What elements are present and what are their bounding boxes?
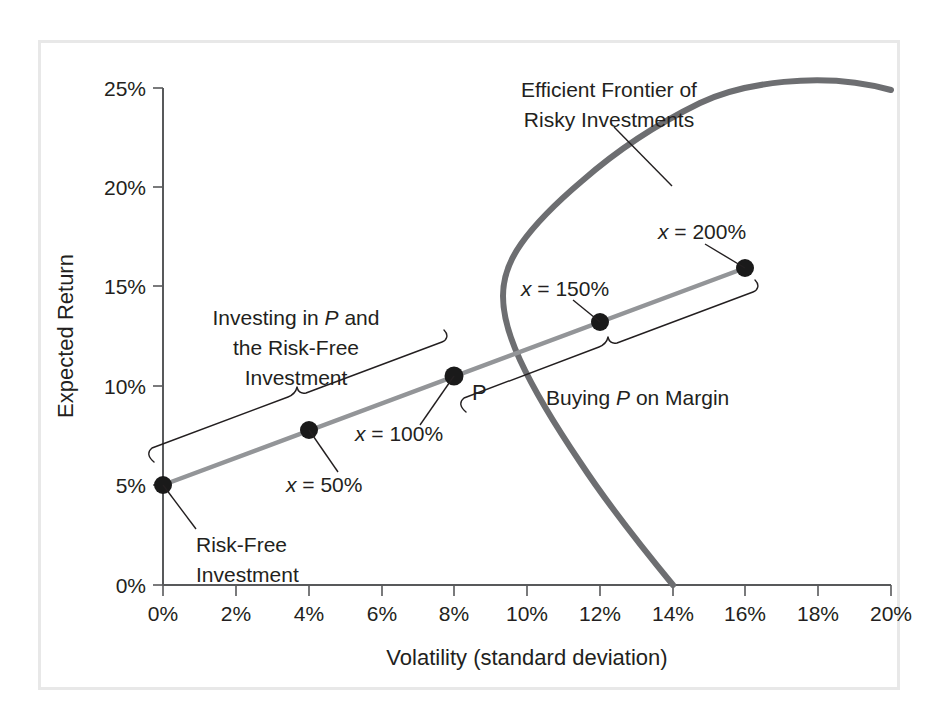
x-axis-title: Volatility (standard deviation)	[386, 645, 667, 670]
label-x50-equals: =	[297, 473, 321, 496]
investing-in-p-text-a: Investing in	[213, 306, 325, 329]
x-tick-label-12: 12%	[579, 602, 621, 625]
point-label-p: P	[472, 380, 487, 405]
label-x200: x = 200%	[657, 220, 746, 243]
x-tick-label-16: 16%	[724, 602, 766, 625]
figure-root: 25% 20% 15% 10% 5% 0% 0% 2% 4% 6% 8% 10%…	[0, 0, 944, 720]
x-tick-label-18: 18%	[797, 602, 839, 625]
efficient-frontier-curve	[503, 80, 891, 585]
y-axis	[153, 88, 163, 585]
label-x100-value: 100%	[389, 422, 443, 445]
label-x200-equals: =	[669, 220, 693, 243]
leader-line-x150	[573, 300, 600, 322]
y-tick-label-0: 0%	[116, 574, 146, 597]
label-x100-equals: =	[366, 422, 390, 445]
risk-free-investment-label-line2: Investment	[196, 563, 299, 586]
leader-line-risk-free	[163, 485, 196, 529]
buying-p-on-margin-label: Buying P on Margin	[546, 386, 729, 409]
y-tick-label-5: 5%	[116, 474, 146, 497]
investing-in-p-text-italic-p: P	[325, 306, 339, 329]
x-tick-label-0: 0%	[148, 602, 178, 625]
label-x150-value: 150%	[555, 277, 609, 300]
x-tick-label-10: 10%	[506, 602, 548, 625]
x-tick-label-4: 4%	[294, 602, 324, 625]
y-axis-title: Expected Return	[53, 254, 78, 418]
x-tick-labels: 0% 2% 4% 6% 8% 10% 12% 14% 16% 18% 20%	[148, 602, 912, 625]
buying-p-text-italic-p: P	[616, 386, 630, 409]
x-tick-label-6: 6%	[367, 602, 397, 625]
label-x150: x = 150%	[520, 277, 609, 300]
buying-p-text-c: on Margin	[630, 386, 729, 409]
y-tick-label-10: 10%	[104, 375, 146, 398]
investing-in-p-label-line2: the Risk-Free	[233, 336, 359, 359]
label-x50: x = 50%	[285, 473, 362, 496]
label-x50-value: 50%	[320, 473, 362, 496]
y-tick-label-15: 15%	[104, 275, 146, 298]
x-tick-label-8: 8%	[439, 602, 469, 625]
leader-line-x50	[309, 430, 338, 472]
risk-free-investment-label-line1: Risk-Free	[196, 533, 287, 556]
y-tick-label-25: 25%	[104, 77, 146, 100]
investing-in-p-label-line3: Investment	[245, 366, 348, 389]
investing-in-p-text-c: and	[339, 306, 380, 329]
efficient-frontier-label-line1: Efficient Frontier of	[521, 78, 697, 101]
label-x200-value: 200%	[692, 220, 746, 243]
x-tick-label-14: 14%	[652, 602, 694, 625]
efficient-frontier-label-line2: Risky Investments	[524, 108, 694, 131]
chart-canvas: 25% 20% 15% 10% 5% 0% 0% 2% 4% 6% 8% 10%…	[0, 0, 944, 720]
leader-line-x200	[705, 244, 745, 268]
buying-p-text-a: Buying	[546, 386, 616, 409]
y-tick-labels: 25% 20% 15% 10% 5% 0%	[104, 77, 146, 597]
label-x150-equals: =	[532, 277, 556, 300]
label-x100: x = 100%	[354, 422, 443, 445]
investing-in-p-label-line1: Investing in P and	[213, 306, 380, 329]
y-tick-label-20: 20%	[104, 176, 146, 199]
x-axis	[163, 585, 891, 596]
x-tick-label-20: 20%	[870, 602, 912, 625]
x-tick-label-2: 2%	[221, 602, 251, 625]
